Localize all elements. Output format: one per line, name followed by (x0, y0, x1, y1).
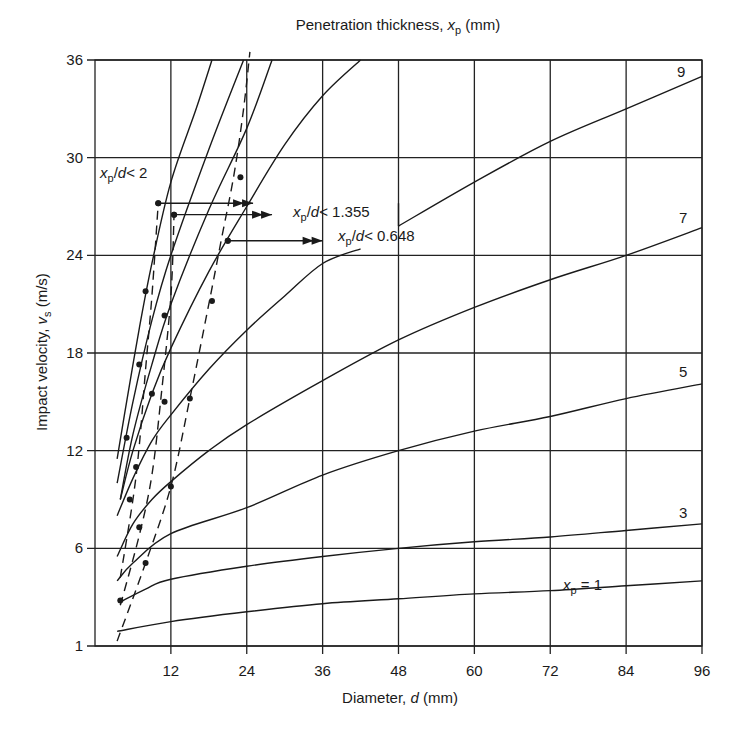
y-tick-label: 12 (66, 442, 83, 459)
marker-dot (162, 313, 168, 319)
curve-x-p-1 (117, 581, 702, 631)
marker-dot (136, 524, 142, 530)
limit-line (120, 215, 174, 606)
marker-dot (162, 399, 168, 405)
curve-x-p-3 (120, 524, 702, 602)
y-tick-label: 36 (66, 51, 83, 68)
curves (117, 60, 702, 631)
marker-dot (136, 361, 142, 367)
marker-dot (149, 391, 155, 397)
x-tick-label: 96 (694, 662, 711, 679)
marker-dot (143, 288, 149, 294)
curve-curve-b (120, 60, 272, 500)
arrow-origin-dot (155, 200, 161, 206)
ratio-label-0648: xp/d< 0.648 (337, 227, 415, 247)
x-axis-title: Diameter, d (mm) (342, 689, 458, 706)
y-tick-label: 30 (66, 149, 83, 166)
arrow-origin-dot (171, 212, 177, 218)
penetration-chart: Penetration thickness, xp (mm) 122436486… (0, 0, 730, 739)
marker-dot (117, 597, 123, 603)
marker-dot (143, 560, 149, 566)
marker-dot (133, 464, 139, 470)
x-tick-label: 24 (238, 662, 255, 679)
y-tick-label: 24 (66, 246, 83, 263)
y-tick-label: 18 (66, 344, 83, 361)
curve-label-7: 7 (679, 209, 687, 226)
y-axis-title: Impact velocity, vs (m/s) (33, 273, 53, 431)
marker-dot (237, 174, 243, 180)
x-tick-label: 36 (314, 662, 331, 679)
curve-x-p-7-lower- (117, 228, 702, 557)
y-tick-label: 1 (75, 637, 83, 654)
ratio-label-1355: xp/d< 1.355 (292, 203, 370, 223)
marker-dot (168, 483, 174, 489)
y-tick-label: 6 (75, 539, 83, 556)
x-axis-ticks: 1224364860728496 (163, 662, 711, 679)
x-tick-label: 60 (466, 662, 483, 679)
x-tick-label: 12 (163, 662, 180, 679)
curve-label-5: 5 (679, 363, 687, 380)
curve-label-9: 9 (677, 63, 685, 80)
x-tick-label: 84 (618, 662, 635, 679)
grid (87, 60, 702, 654)
x-tick-label: 48 (390, 662, 407, 679)
marker-dot (187, 396, 193, 402)
marker-dot (209, 298, 215, 304)
curve-label-1: xp = 1 (562, 576, 602, 596)
chart-title: Penetration thickness, xp (mm) (296, 16, 501, 36)
marker-dot (124, 435, 130, 441)
curve-x-p-7 (117, 249, 360, 516)
ratio-label-2: xp/d< 2 (99, 164, 147, 184)
marker-dot (127, 497, 133, 503)
curve-x-p-5 (117, 384, 702, 581)
y-axis-ticks: 161218243036 (66, 51, 83, 654)
arrow-origin-dot (225, 238, 231, 244)
x-tick-label: 72 (542, 662, 559, 679)
curve-label-3: 3 (679, 504, 687, 521)
